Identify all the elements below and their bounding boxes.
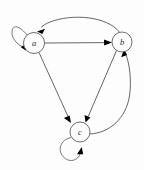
edge-a-to-b — [45, 40, 113, 46]
directed-graph: a b c — [0, 0, 144, 170]
node-b[interactable]: b — [112, 32, 132, 52]
node-a-label: a — [32, 38, 36, 48]
edge-a-to-c — [39, 53, 71, 124]
edge-c-to-b — [90, 49, 131, 134]
edge-b-to-a — [37, 17, 120, 34]
edge-b-to-c-arrowhead — [85, 115, 91, 123]
diagram-canvas: a b c — [0, 0, 144, 170]
node-a[interactable]: a — [24, 33, 45, 54]
edge-b-to-a-path — [41, 17, 119, 32]
edge-b-to-c — [85, 51, 117, 123]
edge-a-to-c-arrowhead — [64, 116, 71, 123]
node-b-label: b — [120, 37, 124, 47]
node-c[interactable]: c — [70, 122, 90, 142]
edge-b-to-c-path — [88, 51, 117, 118]
edge-a-to-c-path — [39, 53, 69, 118]
edge-c-to-c-arrowhead — [77, 147, 83, 154]
edge-a-to-b-arrowhead — [104, 40, 112, 46]
node-c-label: c — [78, 127, 82, 137]
